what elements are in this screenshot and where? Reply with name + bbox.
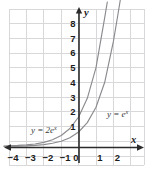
x-tick-neg4: −4 [8, 152, 20, 163]
curve-label-2ex-base: y = 2e [30, 125, 54, 135]
y-tick-5: 5 [70, 62, 76, 73]
x-tick-2: 2 [115, 152, 120, 163]
curve-label-2ex-exponent: x [53, 124, 57, 131]
curve-label-2ex: y = 2ex [30, 124, 57, 136]
curve-label-ex-base: y = e [106, 109, 126, 119]
y-axis-label: y [82, 7, 89, 18]
y-tick-1: 1 [70, 121, 76, 132]
chart-canvas: 8 7 6 5 4 3 2 1 −4 −3 −2 −1 0 1 2 y x y … [0, 0, 149, 177]
y-tick-2: 2 [70, 106, 75, 117]
x-tick-1: 1 [97, 152, 103, 163]
x-axis-arrow-right [137, 144, 144, 150]
x-tick-labels: −4 −3 −2 −1 0 1 2 [8, 152, 120, 163]
y-tick-6: 6 [70, 47, 75, 58]
x-tick-neg3: −3 [25, 152, 36, 163]
y-tick-7: 7 [70, 33, 75, 44]
curve-label-ex: y = ex [106, 108, 129, 120]
x-tick-neg1: −1 [60, 152, 72, 163]
grid-horizontal [9, 9, 144, 165]
y-tick-8: 8 [70, 18, 75, 29]
y-tick-4: 4 [70, 77, 76, 88]
y-axis-arrow [76, 7, 82, 14]
y-tick-labels: 8 7 6 5 4 3 2 1 [70, 18, 76, 132]
x-tick-0: 0 [73, 152, 78, 163]
exponential-functions-graph: 8 7 6 5 4 3 2 1 −4 −3 −2 −1 0 1 2 y x y … [0, 0, 149, 177]
x-tick-neg2: −2 [42, 152, 53, 163]
y-axis [76, 7, 82, 163]
curve-ex [4, 0, 120, 146]
curve-label-ex-exponent: x [125, 108, 129, 115]
x-axis-label: x [130, 134, 136, 145]
y-tick-3: 3 [70, 92, 75, 103]
